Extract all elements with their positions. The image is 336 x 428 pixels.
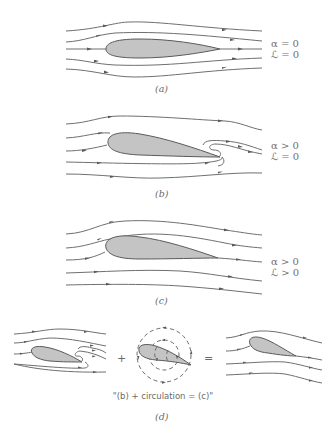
circulation-diagram [137, 326, 192, 383]
airfoil-a [106, 39, 220, 58]
flow-c-small [226, 331, 322, 383]
panel-a: α = 0 ℒ = 0 (a) [66, 22, 299, 94]
caption-d: (d) [155, 411, 169, 422]
alpha-label-c: α > 0 [271, 256, 299, 267]
airfoil-d-right [250, 337, 297, 356]
panel-b: α > 0 ℒ = 0 (b) [66, 116, 299, 199]
airfoil-d-middle [139, 344, 191, 365]
panel-d: + = [14, 326, 322, 422]
caption-b: (b) [155, 188, 169, 199]
lift-label-a: ℒ = 0 [271, 49, 299, 60]
lift-label-b: ℒ = 0 [271, 151, 299, 162]
airfoil-c [106, 236, 218, 259]
caption-a: (a) [155, 83, 168, 94]
airfoil-d-left [31, 346, 82, 362]
flow-b-small [14, 329, 106, 373]
equation-text: "(b) + circulation = (c)" [113, 391, 214, 401]
alpha-label-b: α > 0 [271, 140, 299, 151]
caption-c: (c) [155, 295, 168, 306]
equals-sign: = [204, 352, 213, 365]
lift-label-c: ℒ > 0 [271, 267, 299, 278]
airfoil-flow-diagram: α = 0 ℒ = 0 (a) α > 0 ℒ = [0, 0, 336, 428]
alpha-label-a: α = 0 [271, 38, 299, 49]
plus-sign: + [117, 352, 126, 365]
panel-c: α > 0 ℒ > 0 (c) [66, 221, 299, 306]
